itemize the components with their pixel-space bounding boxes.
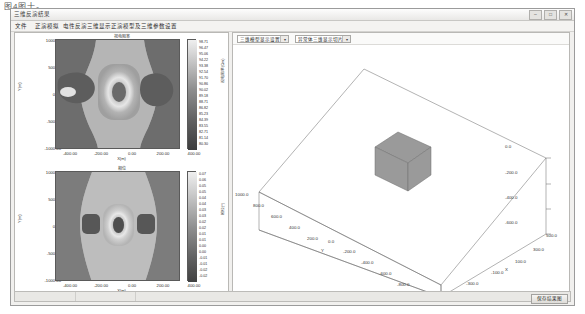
workspace: 视电阻率 Y(m) 1000.00 500.00 0.00 -500.00 -1… (11, 31, 574, 305)
display-mode-value: 三维模型显示设置 (240, 37, 280, 42)
lower-cbar-tick-11: 0.01 (199, 238, 206, 242)
x-tick-4: 300.0 (533, 247, 544, 252)
y-tick-4: 200.0 (307, 236, 318, 241)
upper-cbar-tick-1: 96.47 (199, 46, 208, 50)
status-bar: 保存结果图 (14, 291, 571, 302)
view3d-canvas[interactable]: 0.0 -200.0 -400.0 -600.0 1000.0 800.0 60… (233, 44, 569, 296)
maximize-button[interactable]: □ (544, 10, 557, 20)
x-tick-2: -100.0 (491, 270, 503, 275)
save-result-button[interactable]: 保存结果图 (531, 294, 568, 304)
upper-colorbar (187, 39, 196, 149)
lower-cbar-tick-8: 0.02 (199, 220, 206, 224)
lower-cbar-tick-7: 0.03 (199, 214, 206, 218)
x-tick-1: -300.0 (466, 281, 478, 286)
y-tick-6: -200.0 (343, 249, 355, 254)
z-tick-1: -200.0 (505, 170, 517, 175)
z-tick-2: -400.0 (505, 195, 517, 200)
upper-contour-svg (56, 40, 180, 149)
lower-cbar-tick-10: 0.01 (199, 232, 206, 236)
lower-cbar-tick-14: -0.01 (199, 256, 207, 260)
window-title: 三维反演结果 (14, 10, 50, 18)
lower-cbar-tick-5: 0.04 (199, 202, 206, 206)
x-tick-3: 100.0 (515, 259, 526, 264)
upper-cbar-tick-0: 98.71 (199, 40, 208, 44)
y-tick-9: -800.0 (397, 282, 409, 287)
y-tick-2: 600.0 (271, 214, 282, 219)
chevron-down-icon[interactable]: ▾ (342, 36, 350, 42)
upper-cbar-tick-3: 94.22 (199, 58, 208, 62)
upper-cbar-tick-10: 88.71 (199, 100, 208, 104)
status-segment-1 (15, 292, 76, 301)
lower-cbar-tick-16: -0.02 (199, 268, 207, 272)
contour-panel: 视电阻率 Y(m) 1000.00 500.00 0.00 -500.00 -1… (14, 32, 229, 297)
lower-cbar-tick-12: 0.00 (199, 244, 206, 248)
application-window: 三维反演结果 – □ ✕ 文件 正演模拟 电性反演 三维显示 正演模型及三维参数… (10, 8, 575, 306)
lower-contour-canvas[interactable] (55, 171, 180, 281)
lower-cbar-tick-4: 0.04 (199, 196, 206, 200)
x-tick-5: 500.0 (546, 233, 557, 238)
title-bar: 三维反演结果 – □ ✕ (11, 9, 574, 21)
x-axis-label: X (505, 267, 508, 272)
upper-cbar-tick-14: 83.55 (199, 124, 208, 128)
upper-cbar-tick-4: 93.38 (199, 64, 208, 68)
upper-x-axis-label: X(m) (15, 156, 228, 161)
lower-colorbar-label: 相位(°) (220, 203, 225, 215)
upper-cbar-tick-13: 84.39 (199, 118, 208, 122)
upper-cbar-tick-16: 81.14 (199, 136, 208, 140)
z-tick-3: -600.0 (505, 220, 517, 225)
upper-colorbar-gradient (188, 40, 197, 150)
y-tick-8: -600.0 (379, 271, 391, 276)
lower-contour-svg (56, 172, 180, 281)
lower-cbar-tick-3: 0.05 (199, 190, 206, 194)
chevron-down-icon[interactable]: ▾ (280, 36, 288, 42)
upper-cbar-tick-9: 89.18 (199, 94, 208, 98)
minimize-button[interactable]: – (529, 10, 542, 20)
display-mode-select[interactable]: 三维模型显示设置 ▾ (237, 35, 289, 43)
upper-cbar-tick-2: 95.06 (199, 52, 208, 56)
upper-y-axis-label: Y(m) (17, 82, 22, 91)
y-tick-5: 0.0 (328, 239, 334, 244)
lower-cbar-tick-13: 0.00 (199, 250, 206, 254)
view3d-panel: 三维模型显示设置 ▾ 异常体三维显示切片 ▾ (232, 32, 570, 297)
lower-cbar-tick-0: 0.07 (199, 172, 206, 176)
menu-item-model-params[interactable]: 正演模型及三维参数设置 (111, 22, 177, 30)
menu-item-file[interactable]: 文件 (15, 22, 27, 30)
upper-cbar-tick-6: 91.70 (199, 76, 208, 80)
contour-plot-upper: 视电阻率 Y(m) 1000.00 500.00 0.00 -500.00 -1… (15, 33, 228, 165)
upper-cbar-tick-12: 85.23 (199, 112, 208, 116)
lower-cbar-tick-9: 0.02 (199, 226, 206, 230)
lower-cbar-tick-1: 0.06 (199, 178, 206, 182)
window-controls: – □ ✕ (529, 10, 572, 20)
upper-colorbar-label: 视电阻率(Ωm) (220, 58, 225, 83)
contour-plot-lower: 相位 Y(m) 1000.00 500.00 0.00 -500.00 -100… (15, 165, 228, 297)
slice-mode-select[interactable]: 异常体三维显示切片 ▾ (295, 35, 351, 43)
slice-mode-value: 异常体三维显示切片 (298, 37, 343, 42)
y-tick-3: 400.0 (289, 225, 300, 230)
z-tick-0: 0.0 (505, 144, 511, 149)
y-tick-7: -400.0 (361, 260, 373, 265)
close-button[interactable]: ✕ (559, 10, 572, 20)
menu-item-forward[interactable]: 正演模拟 (35, 22, 59, 30)
y-axis-label: Y (321, 248, 324, 253)
y-tick-1: 800.0 (253, 203, 264, 208)
upper-cbar-tick-15: 82.71 (199, 130, 208, 134)
y-tick-0: 1000.0 (235, 192, 248, 197)
upper-cbar-tick-11: 86.82 (199, 106, 208, 110)
upper-cbar-tick-17: 80.30 (199, 142, 208, 146)
upper-cbar-tick-8: 90.02 (199, 88, 208, 92)
status-segment-2 (75, 292, 136, 301)
lower-cbar-tick-17: -0.02 (199, 274, 207, 278)
lower-cbar-tick-6: 0.03 (199, 208, 206, 212)
upper-cbar-tick-5: 92.54 (199, 70, 208, 74)
upper-contour-canvas[interactable] (55, 39, 180, 149)
menu-item-3d-display[interactable]: 三维显示 (87, 22, 111, 30)
menu-item-inversion[interactable]: 电性反演 (63, 22, 87, 30)
lower-colorbar (187, 171, 196, 281)
lower-cbar-tick-2: 0.05 (199, 184, 206, 188)
lower-cbar-tick-15: -0.01 (199, 262, 207, 266)
upper-cbar-tick-7: 90.86 (199, 82, 208, 86)
lower-colorbar-gradient (188, 172, 197, 282)
lower-y-axis-label: Y(m) (17, 214, 22, 223)
